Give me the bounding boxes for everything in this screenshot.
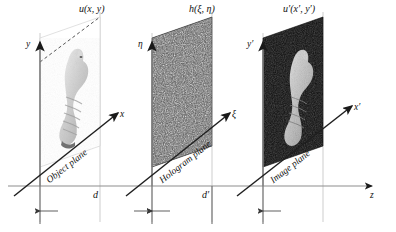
distance-d-label: d — [93, 190, 98, 200]
y-axis-label: y — [26, 40, 30, 50]
z-axis-label: z — [370, 191, 374, 201]
figure-canvas: u(x, y) h(ξ, η) u′(x′, y′) y η y′ x ξ x′… — [0, 0, 396, 232]
image-plane-reconstruction — [263, 17, 323, 167]
xi-axis-label: ξ — [232, 110, 236, 120]
object-plane-photo — [40, 38, 100, 167]
distance-dprime-label: d′ — [202, 190, 209, 200]
image-plane-panel — [263, 17, 323, 167]
yprime-axis-label: y′ — [247, 40, 253, 50]
hologram-field-label: h(ξ, η) — [189, 4, 215, 14]
xprime-axis-label: x′ — [354, 103, 360, 113]
diagram-vector-layer — [0, 0, 396, 232]
object-field-label: u(x, y) — [79, 4, 105, 14]
image-field-label: u′(x′, y′) — [283, 4, 315, 14]
eta-axis-label: η — [138, 40, 143, 50]
x-axis-label: x — [120, 110, 124, 120]
dimension-markers — [40, 186, 281, 224]
